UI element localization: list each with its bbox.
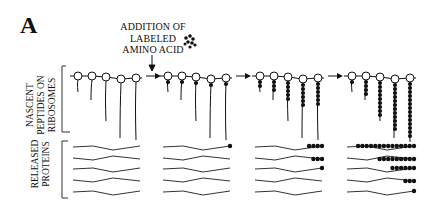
ribosome-icon: [164, 72, 172, 80]
labeled-bead: [408, 144, 412, 148]
ribosome-icon: [207, 75, 215, 83]
labeled-bead: [180, 80, 184, 84]
stage-4: [344, 72, 416, 195]
labeled-bead: [393, 111, 397, 115]
released-protein: [255, 191, 322, 195]
labeled-bead: [378, 97, 382, 101]
labeled-bead: [393, 95, 397, 99]
labeled-bead: [224, 82, 228, 86]
labeled-bead: [272, 88, 276, 92]
labeled-bead: [403, 179, 407, 183]
ribosome-icon: [117, 75, 125, 83]
nascent-bracket: [62, 66, 70, 132]
ribosome-icon: [132, 74, 140, 82]
labeled-bead: [412, 157, 416, 161]
nascent-peptide-chain: [120, 83, 121, 138]
labeled-bead: [408, 114, 412, 118]
labeled-bead: [378, 93, 382, 97]
released-protein: [347, 191, 414, 195]
labeled-bead: [301, 99, 305, 103]
nascent-peptide-chain: [136, 82, 137, 140]
right-arrow-icon: [337, 73, 343, 79]
labeled-bead: [258, 80, 262, 84]
labeled-bead: [408, 98, 412, 102]
labeled-bead: [350, 80, 354, 84]
labeled-bead: [408, 94, 412, 98]
ribosome-icon: [299, 75, 307, 83]
labeled-bead: [408, 122, 412, 126]
labeled-bead: [286, 93, 290, 97]
labeled-bead: [360, 144, 364, 148]
ribosome-icon: [376, 73, 384, 81]
labeled-bead: [378, 105, 382, 109]
labeled-bead: [364, 84, 368, 88]
labeled-bead: [311, 144, 315, 148]
labeled-bead: [356, 144, 360, 148]
labeled-bead: [316, 102, 320, 106]
labeled-bead: [316, 144, 320, 148]
labeled-bead: [320, 166, 324, 170]
labeled-bead: [301, 95, 305, 99]
labeled-bead: [393, 99, 397, 103]
nascent-peptide-chain: [210, 83, 211, 138]
stage-1: [70, 72, 161, 195]
labeled-bead: [378, 85, 382, 89]
released-protein: [73, 191, 140, 195]
labeled-bead: [393, 107, 397, 111]
labeled-bead: [365, 144, 369, 148]
released-protein: [163, 146, 230, 150]
diagram-canvas: [0, 0, 437, 210]
labeled-bead: [408, 134, 412, 138]
labeled-bead: [301, 91, 305, 95]
labeled-bead: [390, 144, 394, 148]
labeled-bead: [272, 84, 276, 88]
labeled-bead: [316, 90, 320, 94]
labeled-bead: [286, 85, 290, 89]
labeled-bead: [408, 106, 412, 110]
ribosome-icon: [102, 73, 110, 81]
labeled-bead: [307, 144, 311, 148]
labeled-bead: [412, 166, 416, 170]
labeled-bead: [393, 87, 397, 91]
nascent-peptide-chain: [78, 80, 79, 92]
labeled-bead: [316, 86, 320, 90]
labeled-bead: [377, 144, 381, 148]
ribosome-icon: [348, 72, 356, 80]
labeled-bead: [382, 144, 386, 148]
labeled-bead: [408, 130, 412, 134]
labeled-bead: [316, 157, 320, 161]
labeled-bead: [390, 166, 394, 170]
right-arrow-icon: [245, 73, 251, 79]
labeled-bead: [378, 113, 382, 117]
labeled-bead: [272, 80, 276, 84]
ribosome-icon: [192, 73, 200, 81]
labeled-bead: [386, 157, 390, 161]
labeled-bead: [393, 83, 397, 87]
labeled-bead: [403, 144, 407, 148]
labeled-bead: [209, 83, 213, 87]
labeled-bead: [399, 144, 403, 148]
labeled-bead: [408, 166, 412, 170]
released-protein: [163, 168, 230, 172]
labeled-bead: [393, 123, 397, 127]
labeled-bead: [301, 87, 305, 91]
released-protein: [255, 178, 322, 182]
labeled-bead: [408, 118, 412, 122]
released-protein: [73, 146, 140, 150]
labeled-bead: [408, 126, 412, 130]
ribosome-icon: [314, 74, 322, 82]
labeled-bead: [320, 144, 324, 148]
labeled-bead: [286, 97, 290, 101]
labeled-bead: [286, 89, 290, 93]
labeled-bead: [364, 92, 368, 96]
labeled-bead: [408, 179, 412, 183]
labeled-bead: [408, 82, 412, 86]
labeled-bead: [316, 82, 320, 86]
labeled-bead: [408, 157, 412, 161]
labeled-bead: [378, 109, 382, 113]
ribosome-icon: [178, 72, 186, 80]
labeled-amino-acid-cluster-icon: [184, 34, 197, 48]
labeled-bead: [364, 88, 368, 92]
stage-2: [160, 72, 251, 195]
ribosome-icon: [270, 72, 278, 80]
